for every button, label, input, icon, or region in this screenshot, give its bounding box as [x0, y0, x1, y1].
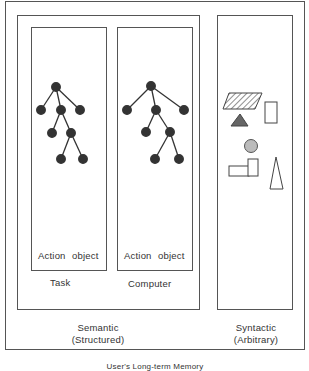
task-tree-icon	[37, 83, 88, 164]
task-action-label: Action	[38, 250, 66, 261]
task-object-label: object	[72, 250, 99, 261]
semantic-subtitle: (Structured)	[65, 334, 131, 345]
tall-triangle-icon	[270, 157, 283, 189]
gray-circle-icon	[245, 140, 258, 153]
rectangle-icon	[265, 102, 277, 123]
rectangle-pair-icon-upper	[248, 159, 258, 176]
syntactic-subtitle: (Arbitrary)	[226, 334, 286, 345]
semantic-title: Semantic	[70, 322, 126, 333]
computer-tree-icon	[123, 82, 189, 164]
hatched-parallelogram-icon	[223, 93, 262, 109]
syntactic-title: Syntactic	[226, 322, 286, 333]
dark-triangle-icon	[231, 114, 248, 126]
computer-object-label: object	[158, 250, 185, 261]
task-panel-title: Task	[50, 277, 70, 288]
diagram-caption: User's Long-term Memory	[90, 362, 220, 371]
computer-action-label: Action	[124, 250, 152, 261]
rectangle-pair-icon	[229, 166, 249, 176]
computer-panel-title: Computer	[128, 278, 171, 289]
